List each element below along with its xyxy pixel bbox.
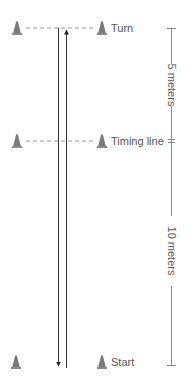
cone-icon-turn-right — [97, 21, 107, 35]
cone-icon-timing-left — [12, 134, 22, 148]
cone-icon-start-right — [97, 355, 107, 369]
sprint-layout-diagram: Turn Timing line Start 5 meters 10 meter… — [0, 0, 192, 390]
timing-line-label: Timing line — [111, 135, 164, 147]
cone-icon-timing-right — [97, 134, 107, 148]
turn-label: Turn — [111, 22, 133, 34]
start-label: Start — [111, 356, 134, 368]
cone-icon-turn-left — [12, 21, 22, 35]
scale-label-10-meters: 10 meters — [166, 227, 178, 276]
cone-icon-start-left — [11, 355, 21, 369]
scale-label-5-meters: 5 meters — [166, 64, 178, 107]
